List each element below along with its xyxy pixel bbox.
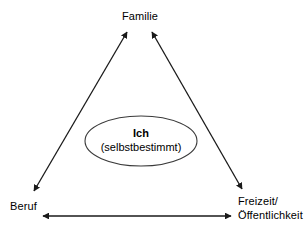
node-label-freizeit-oeffentlichkeit: Freizeit/ Öffentlichkeit (238, 194, 303, 222)
connector-freizeit-familie (152, 32, 242, 189)
center-node-text: Ich (selbstbestimmt) (85, 126, 197, 154)
node-label-freizeit-line1: Freizeit/ (238, 194, 303, 208)
center-node-subtitle: (selbstbestimmt) (85, 140, 197, 154)
node-label-familie: Familie (0, 10, 280, 23)
node-label-beruf: Beruf (10, 200, 37, 213)
diagram-canvas: Familie Beruf Freizeit/ Öffentlichkeit I… (0, 0, 308, 233)
node-label-freizeit-line2: Öffentlichkeit (238, 208, 303, 222)
connector-beruf-familie (34, 32, 127, 191)
center-node-title: Ich (85, 126, 197, 140)
